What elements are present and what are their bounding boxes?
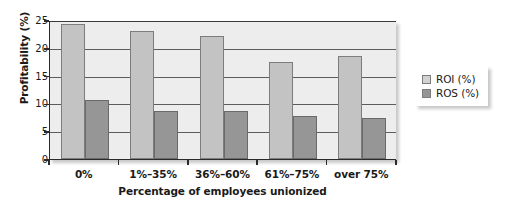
x-category-label-3: 61%–75% (257, 168, 326, 180)
y-tick-label-15: 15 (8, 72, 48, 82)
y-tick-label-10: 10 (8, 99, 48, 109)
x-category-label-4: over 75% (327, 168, 396, 180)
legend-item-roi: ROI (%) (422, 72, 479, 86)
x-category-label-1: 1%–35% (118, 168, 187, 180)
plot-area (49, 21, 396, 160)
x-tick-0 (48, 160, 50, 165)
bar-ros-2 (224, 111, 248, 159)
x-axis-title: Percentage of employees unionized (49, 185, 396, 197)
legend-item-ros: ROS (%) (422, 86, 479, 100)
legend-label-roi: ROI (%) (436, 73, 475, 85)
bar-chart-figure: Profitability (%) 0510152025 0%1%–35%36%… (0, 0, 505, 205)
x-tick-4 (326, 160, 328, 165)
bar-roi-3 (269, 62, 293, 159)
chart-legend: ROI (%)ROS (%) (415, 66, 488, 106)
y-tick-label-20: 20 (8, 44, 48, 54)
bar-roi-4 (338, 56, 362, 159)
x-tick-1 (118, 160, 120, 165)
x-category-label-2: 36%–60% (188, 168, 257, 180)
y-tick-label-25: 25 (8, 16, 48, 26)
x-tick-2 (187, 160, 189, 165)
x-category-label-0: 0% (49, 168, 118, 180)
bar-roi-2 (200, 36, 224, 159)
y-tick-label-5: 5 (8, 127, 48, 137)
bar-ros-4 (362, 118, 386, 159)
bar-roi-1 (130, 31, 154, 159)
legend-swatch-roi (422, 75, 431, 84)
bar-roi-0 (61, 24, 85, 159)
bar-ros-1 (154, 111, 178, 159)
gridline-25 (50, 21, 396, 22)
y-tick-label-0: 0 (8, 155, 48, 165)
bar-ros-3 (293, 116, 317, 159)
x-tick-5 (395, 160, 397, 165)
legend-label-ros: ROS (%) (436, 87, 479, 99)
legend-swatch-ros (422, 89, 431, 98)
x-tick-3 (256, 160, 258, 165)
bar-ros-0 (85, 100, 109, 159)
